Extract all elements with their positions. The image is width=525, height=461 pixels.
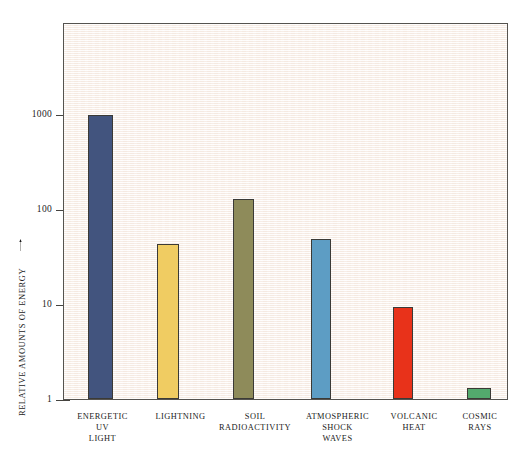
y-tick-label-1: 1 <box>22 394 52 404</box>
y-tick-label-100: 100 <box>22 204 52 214</box>
chart-figure: RELATIVE AMOUNTS OF ENERGY 1000 100 10 1… <box>0 0 525 461</box>
bar-atmospheric-shock-waves[interactable] <box>311 239 331 399</box>
bar-cosmic-rays[interactable] <box>467 388 491 399</box>
x-category-label-cosmic-rays: COSMIC RAYS <box>440 411 520 433</box>
bar-soil-radioactivity[interactable] <box>233 199 254 399</box>
plot-area <box>63 23 508 400</box>
y-tick-label-1000: 1000 <box>22 109 52 119</box>
y-tick-mark-1 <box>56 400 70 401</box>
bar-volcanic-heat[interactable] <box>393 307 413 399</box>
bar-lightning[interactable] <box>157 244 179 399</box>
bar-energetic-uv-light[interactable] <box>88 115 113 399</box>
y-tick-label-10: 10 <box>22 299 52 309</box>
